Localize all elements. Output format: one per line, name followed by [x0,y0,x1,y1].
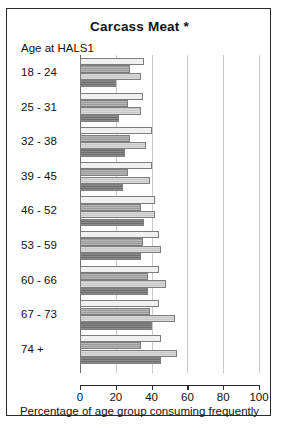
bar-group: 39 - 45 [7,161,272,195]
chart-frame: Carcass Meat * Age at HALS1 18 - 2425 - … [6,8,271,416]
x-tick-label: 20 [101,391,131,403]
bar [80,169,128,176]
bar-group: 32 - 38 [7,126,272,160]
bar [80,127,152,134]
bar [80,184,123,191]
bar [80,142,146,149]
bar [80,342,141,349]
x-tick [80,386,81,390]
x-tick [116,386,117,390]
bar [80,65,130,72]
bar-group: 67 - 73 [7,299,272,333]
bar [80,273,148,280]
bar [80,300,159,307]
bar-group: 46 - 52 [7,195,272,229]
bar [80,93,143,100]
x-tick-label: 60 [172,391,202,403]
bar-group: 74 + [7,334,272,368]
category-label: 39 - 45 [21,170,57,182]
category-label: 25 - 31 [21,101,57,113]
bar [80,266,159,273]
bar [80,115,119,122]
bar [80,135,130,142]
bar [80,246,161,253]
bar [80,162,152,169]
x-tick [223,386,224,390]
category-label: 60 - 66 [21,274,57,286]
category-label: 53 - 59 [21,239,57,251]
chart-title: Carcass Meat * [7,19,272,34]
x-tick-label: 0 [65,391,95,403]
bar [80,211,155,218]
bar [80,58,144,65]
bar [80,322,152,329]
x-tick-label: 100 [244,391,274,403]
y-axis-title: Age at HALS1 [21,42,94,54]
bar [80,357,161,364]
bar [80,177,150,184]
x-tick [259,386,260,390]
bar [80,288,148,295]
bar-group: 53 - 59 [7,230,272,264]
x-tick [187,386,188,390]
bar [80,80,116,87]
bar [80,315,175,322]
bar-group: 25 - 31 [7,92,272,126]
x-axis-line [80,385,260,386]
category-label: 74 + [21,343,44,355]
bar [80,238,143,245]
x-tick-label: 80 [208,391,238,403]
bar [80,107,141,114]
x-tick-label: 40 [137,391,167,403]
category-label: 67 - 73 [21,308,57,320]
x-axis-label: Percentage of age group consuming freque… [7,405,272,417]
bar [80,149,125,156]
bar [80,204,141,211]
plot-area: 18 - 2425 - 3132 - 3839 - 4546 - 5253 - … [7,55,272,385]
bar [80,335,161,342]
bar [80,350,177,357]
bar-group: 60 - 66 [7,265,272,299]
bar [80,100,128,107]
bar [80,231,159,238]
category-label: 18 - 24 [21,66,57,78]
bar [80,219,144,226]
bar [80,196,155,203]
category-label: 46 - 52 [21,204,57,216]
x-tick [152,386,153,390]
bar [80,308,150,315]
bar [80,280,166,287]
bar [80,73,141,80]
bar [80,253,141,260]
category-label: 32 - 38 [21,135,57,147]
bar-group: 18 - 24 [7,57,272,91]
